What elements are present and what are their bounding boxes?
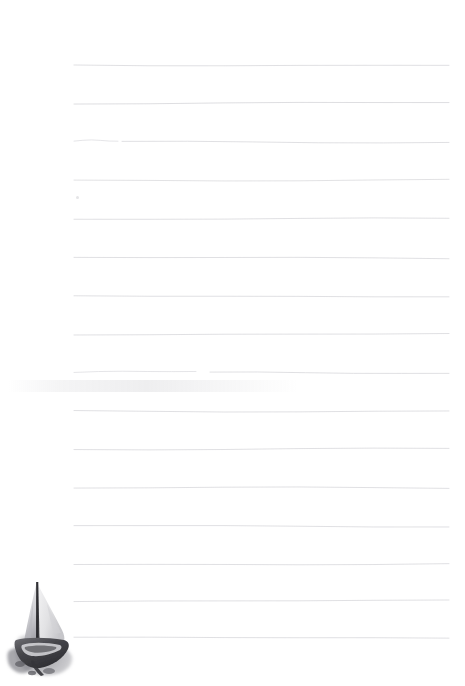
ruled-line [74, 257, 449, 258]
ruled-line [74, 526, 449, 527]
notepaper-page: Blank ruled notepaper with sailboat illu… [0, 0, 465, 686]
ruled-line [210, 372, 449, 373]
ruled-line [74, 564, 449, 565]
ruled-line [74, 179, 449, 181]
ruled-line [74, 487, 449, 488]
ruled-line [74, 218, 449, 219]
ruled-line [74, 411, 449, 412]
page-title: Blank ruled notepaper with sailboat illu… [0, 21, 1, 22]
jib [25, 585, 37, 643]
ruled-line [122, 141, 449, 143]
ruled-line [74, 371, 196, 372]
ruled-line [74, 296, 449, 297]
ruled-line [74, 637, 449, 638]
ruled-line [74, 140, 118, 141]
ink-speck [76, 196, 79, 199]
paper-smudge [8, 380, 298, 392]
sailboat-illustration [2, 576, 82, 680]
ruled-line [74, 448, 449, 450]
ruled-line [74, 102, 449, 104]
ruled-line [74, 65, 449, 66]
ruled-line [74, 600, 449, 602]
ruled-line [74, 334, 449, 335]
mainsail [37, 583, 64, 642]
sailboat-canvas [2, 576, 82, 680]
